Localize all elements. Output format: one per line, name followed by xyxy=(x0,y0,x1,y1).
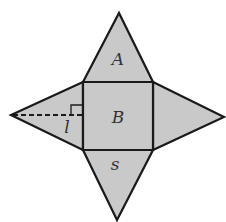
label-B: B xyxy=(111,107,125,127)
pyramid-net-diagram: A B s l xyxy=(0,0,226,222)
left-triangle-face xyxy=(11,82,83,150)
label-l: l xyxy=(64,117,69,137)
label-s: s xyxy=(111,154,120,174)
top-triangle-face xyxy=(83,13,153,82)
label-A: A xyxy=(110,49,124,69)
right-triangle-face xyxy=(153,82,224,150)
